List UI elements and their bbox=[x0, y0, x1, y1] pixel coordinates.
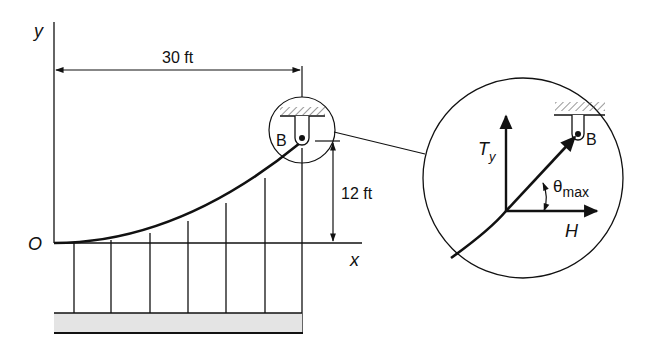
span-dimension bbox=[56, 66, 302, 97]
support-b-label: B bbox=[276, 132, 287, 149]
theta-max-label: θmax bbox=[553, 177, 589, 200]
span-dimension-label: 30 ft bbox=[162, 49, 194, 66]
tension-y-label: Ty bbox=[478, 139, 497, 164]
detail-b-label: B bbox=[586, 131, 597, 148]
cable-diagram: y x O 30 ft 12 ft B bbox=[0, 0, 658, 354]
callout-leader bbox=[334, 132, 425, 154]
horizontal-force-label: H bbox=[565, 221, 579, 241]
sag-dimension bbox=[315, 141, 340, 241]
hangers bbox=[74, 178, 265, 313]
sag-dimension-label: 12 ft bbox=[341, 185, 373, 202]
cable-curve bbox=[54, 143, 300, 243]
detail-view bbox=[423, 78, 623, 278]
deck bbox=[54, 313, 303, 333]
origin-label: O bbox=[28, 234, 42, 254]
x-axis-label: x bbox=[349, 250, 360, 270]
y-axis-label: y bbox=[32, 21, 44, 41]
